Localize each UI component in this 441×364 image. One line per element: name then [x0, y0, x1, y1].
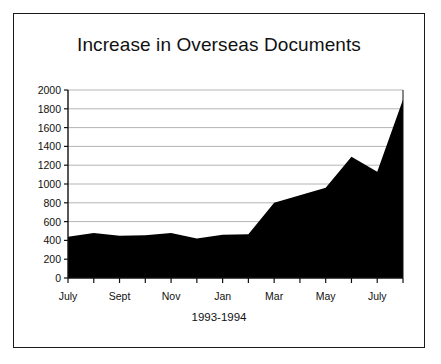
y-tick-label: 1800 [38, 103, 61, 115]
y-tick-label: 1000 [38, 178, 61, 190]
chart-figure-frame: Increase in Overseas Documents 020040060… [13, 13, 425, 348]
x-tick-label: July [59, 290, 78, 302]
x-tick-label: Nov [162, 290, 181, 302]
y-tick-label: 600 [43, 216, 61, 228]
x-tick-label: May [316, 290, 336, 302]
y-tick-label: 0 [55, 272, 61, 284]
x-tick-label: Jan [214, 290, 231, 302]
x-axis-caption: 1993-1994 [14, 311, 424, 323]
x-tick-label: Mar [265, 290, 283, 302]
x-tick-label: July [368, 290, 387, 302]
area-series-group [68, 99, 403, 278]
y-tick-label: 2000 [38, 84, 61, 96]
y-tick-label: 400 [43, 234, 61, 246]
plot-area: 0200400600800100012001400160018002000 Ju… [14, 14, 426, 349]
y-tick-label: 1400 [38, 140, 61, 152]
y-tick-label: 1600 [38, 122, 61, 134]
y-tick-label: 800 [43, 197, 61, 209]
area-series [68, 99, 403, 278]
y-tick-label: 200 [43, 253, 61, 265]
y-tick-label: 1200 [38, 159, 61, 171]
x-tick-label: Sept [109, 290, 131, 302]
